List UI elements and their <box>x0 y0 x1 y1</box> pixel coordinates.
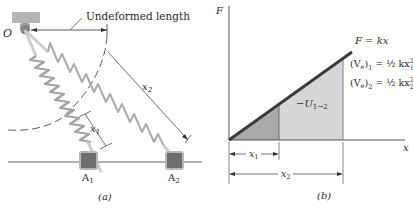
caption-a: (a) <box>98 191 112 202</box>
spring-2 <box>27 32 180 164</box>
undeformed-arc <box>8 36 107 130</box>
force-line-label: F = kx <box>354 35 389 46</box>
x1-dim-label: x1 <box>249 148 259 161</box>
x-axis-label: x <box>403 142 409 153</box>
spring-1 <box>25 30 101 172</box>
graph-svg: F x F = kx (Ve)1 = ½ kx21 (Ve)2 = ½ kx22… <box>212 0 413 208</box>
collar-a1-label: A1 <box>81 172 94 185</box>
arrow-right-icon <box>273 152 279 156</box>
spring-sketch-svg: O Undeformed length x1 x2 <box>0 0 212 208</box>
fixed-support <box>12 12 40 23</box>
leader-line <box>70 18 82 30</box>
collar-a2 <box>166 152 183 169</box>
pivot-label: O <box>3 27 12 40</box>
force-deflection-graph: F x F = kx (Ve)1 = ½ kx21 (Ve)2 = ½ kx22… <box>212 0 413 208</box>
spring-collar-sketch: O Undeformed length x1 x2 <box>0 0 212 208</box>
ve2-formula: (Ve)2 = ½ kx22 <box>350 76 413 91</box>
collar-a1 <box>80 152 97 169</box>
arrow-left-icon <box>31 28 37 32</box>
caption-b: (b) <box>317 190 331 201</box>
collar-a2-label: A2 <box>167 172 180 185</box>
arrow-right-icon <box>101 28 107 32</box>
y-axis-label: F <box>215 5 224 16</box>
arrow-left-icon <box>229 152 235 156</box>
undeformed-length-label: Undeformed length <box>86 10 190 22</box>
x1-label: x1 <box>90 123 100 136</box>
x2-dim-label: x2 <box>281 168 291 181</box>
ve1-formula: (Ve)1 = ½ kx21 <box>350 57 413 72</box>
x2-label: x2 <box>142 81 153 94</box>
